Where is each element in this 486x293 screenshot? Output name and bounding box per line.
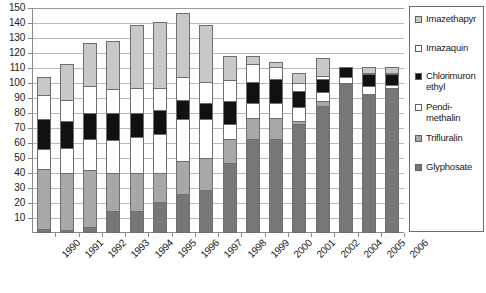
bar-2000[interactable] xyxy=(269,62,283,233)
bar-segment-trifluralin[interactable] xyxy=(223,139,237,163)
bar-1997[interactable] xyxy=(199,25,213,234)
bar-segment-trifluralin[interactable] xyxy=(199,158,213,190)
bar-segment-chlorimuron-ethyl[interactable] xyxy=(385,74,399,85)
legend-item-trifluralin[interactable]: Trifluralin xyxy=(415,133,483,144)
legend-item-pendi-methalin[interactable]: Pendi- methalin xyxy=(415,102,483,123)
bar-segment-chlorimuron-ethyl[interactable] xyxy=(362,74,376,86)
bar-2005[interactable] xyxy=(362,67,376,234)
bar-segment-chlorimuron-ethyl[interactable] xyxy=(37,119,51,149)
bar-segment-chlorimuron-ethyl[interactable] xyxy=(269,79,283,103)
bar-segment-imazethapyr[interactable] xyxy=(153,22,167,88)
bar-segment-pendimethalin[interactable] xyxy=(83,139,97,171)
bar-1996[interactable] xyxy=(176,13,190,234)
bar-segment-pendimethalin[interactable] xyxy=(246,103,260,118)
bar-segment-imazethapyr[interactable] xyxy=(223,56,237,80)
bar-segment-pendimethalin[interactable] xyxy=(153,134,167,173)
bar-2002[interactable] xyxy=(316,58,330,234)
bar-segment-glyphosate[interactable] xyxy=(339,83,353,233)
bar-segment-chlorimuron-ethyl[interactable] xyxy=(292,91,306,108)
bar-segment-imazaquin[interactable] xyxy=(106,89,120,113)
bar-segment-glyphosate[interactable] xyxy=(362,94,376,234)
bar-segment-glyphosate[interactable] xyxy=(292,124,306,234)
bar-segment-trifluralin[interactable] xyxy=(246,118,260,139)
bar-segment-glyphosate[interactable] xyxy=(246,139,260,234)
bar-segment-imazethapyr[interactable] xyxy=(199,25,213,82)
bar-1993[interactable] xyxy=(106,41,120,233)
bar-segment-pendimethalin[interactable] xyxy=(60,148,74,174)
bar-segment-pendimethalin[interactable] xyxy=(223,124,237,139)
bar-segment-pendimethalin[interactable] xyxy=(130,137,144,173)
bar-segment-chlorimuron-ethyl[interactable] xyxy=(199,103,213,120)
bar-segment-chlorimuron-ethyl[interactable] xyxy=(153,110,167,134)
bar-segment-chlorimuron-ethyl[interactable] xyxy=(176,100,190,120)
bar-1990[interactable] xyxy=(37,77,51,233)
bar-segment-pendimethalin[interactable] xyxy=(316,92,330,101)
bar-segment-glyphosate[interactable] xyxy=(316,106,330,234)
bar-segment-imazaquin[interactable] xyxy=(176,77,190,100)
bar-segment-pendimethalin[interactable] xyxy=(37,149,51,169)
bar-segment-trifluralin[interactable] xyxy=(37,169,51,229)
bar-segment-trifluralin[interactable] xyxy=(269,118,283,139)
bar-segment-glyphosate[interactable] xyxy=(130,211,144,234)
bar-2004[interactable] xyxy=(339,67,353,234)
bar-1991[interactable] xyxy=(60,64,74,234)
bar-segment-imazethapyr[interactable] xyxy=(83,43,97,87)
bar-segment-imazaquin[interactable] xyxy=(130,88,144,114)
bar-segment-chlorimuron-ethyl[interactable] xyxy=(130,113,144,137)
bar-segment-trifluralin[interactable] xyxy=(153,173,167,202)
bar-segment-imazethapyr[interactable] xyxy=(176,13,190,78)
bar-segment-chlorimuron-ethyl[interactable] xyxy=(83,113,97,139)
bar-segment-pendimethalin[interactable] xyxy=(199,119,213,158)
bar-1998[interactable] xyxy=(223,56,237,233)
bar-segment-glyphosate[interactable] xyxy=(223,163,237,234)
bar-segment-trifluralin[interactable] xyxy=(176,161,190,194)
bar-segment-pendimethalin[interactable] xyxy=(292,107,306,121)
bar-segment-trifluralin[interactable] xyxy=(106,173,120,211)
bar-segment-imazaquin[interactable] xyxy=(199,82,213,103)
bar-2001[interactable] xyxy=(292,73,306,234)
bar-segment-trifluralin[interactable] xyxy=(130,173,144,211)
bar-segment-glyphosate[interactable] xyxy=(176,194,190,233)
bar-segment-chlorimuron-ethyl[interactable] xyxy=(339,67,353,78)
bar-segment-imazethapyr[interactable] xyxy=(292,73,306,84)
legend-item-imazethapyr[interactable]: Imazethapyr xyxy=(415,14,483,25)
bar-segment-chlorimuron-ethyl[interactable] xyxy=(106,113,120,140)
legend-item-glyphosate[interactable]: Glyphosate xyxy=(415,162,483,173)
bar-segment-imazethapyr[interactable] xyxy=(60,64,74,100)
bar-segment-imazethapyr[interactable] xyxy=(37,77,51,95)
bar-1999[interactable] xyxy=(246,56,260,233)
bar-segment-glyphosate[interactable] xyxy=(269,139,283,234)
bar-segment-glyphosate[interactable] xyxy=(385,88,399,234)
bar-segment-pendimethalin[interactable] xyxy=(269,103,283,118)
bar-segment-chlorimuron-ethyl[interactable] xyxy=(223,101,237,124)
bar-segment-pendimethalin[interactable] xyxy=(362,86,376,94)
bar-1994[interactable] xyxy=(130,25,144,234)
legend-item-chlorimuronethyl[interactable]: Chlorimuron ethyl xyxy=(415,71,483,92)
legend-item-imazaquin[interactable]: Imazaquin xyxy=(415,43,483,54)
bar-1992[interactable] xyxy=(83,43,97,234)
bar-segment-imazaquin[interactable] xyxy=(246,64,260,82)
bar-segment-imazaquin[interactable] xyxy=(37,95,51,119)
bar-segment-glyphosate[interactable] xyxy=(153,202,167,234)
bar-segment-imazaquin[interactable] xyxy=(269,67,283,79)
bar-segment-chlorimuron-ethyl[interactable] xyxy=(60,121,74,148)
bar-segment-imazaquin[interactable] xyxy=(83,86,97,113)
bar-segment-imazethapyr[interactable] xyxy=(316,58,330,76)
bar-segment-imazethapyr[interactable] xyxy=(106,41,120,89)
bar-segment-imazaquin[interactable] xyxy=(292,83,306,91)
bar-1995[interactable] xyxy=(153,22,167,234)
bar-segment-trifluralin[interactable] xyxy=(83,170,97,227)
bar-segment-pendimethalin[interactable] xyxy=(106,140,120,173)
bar-segment-trifluralin[interactable] xyxy=(60,173,74,230)
bar-segment-imazethapyr[interactable] xyxy=(130,25,144,88)
bar-segment-glyphosate[interactable] xyxy=(199,190,213,234)
bar-segment-imazaquin[interactable] xyxy=(60,100,74,121)
bar-segment-pendimethalin[interactable] xyxy=(176,119,190,161)
bar-segment-imazaquin[interactable] xyxy=(223,80,237,101)
bar-segment-chlorimuron-ethyl[interactable] xyxy=(246,82,260,103)
bar-segment-imazethapyr[interactable] xyxy=(246,56,260,64)
bar-segment-chlorimuron-ethyl[interactable] xyxy=(316,79,330,93)
bar-2006[interactable] xyxy=(385,67,399,234)
bar-segment-glyphosate[interactable] xyxy=(106,211,120,234)
bar-segment-imazaquin[interactable] xyxy=(153,88,167,111)
